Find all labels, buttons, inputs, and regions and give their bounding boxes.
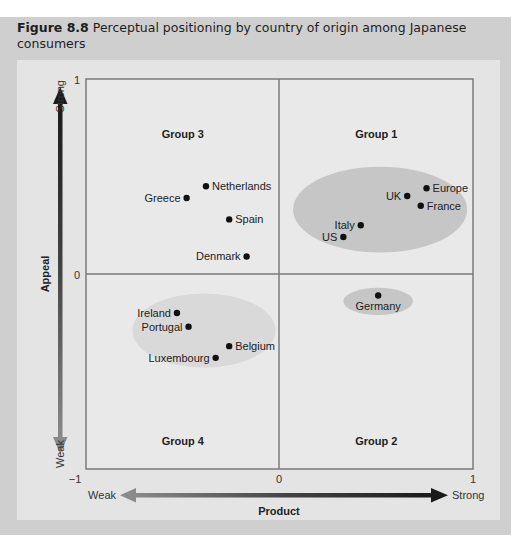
quadrant-label: Group 3 [162,128,204,140]
x-tick-right: 1 [470,473,476,485]
x-tick-mid: 0 [276,473,282,485]
dot-marker [404,193,410,199]
y-axis-strong-label: Strong [54,80,66,112]
data-point: Netherlands [203,180,272,192]
x-axis-title: Product [258,505,300,517]
point-label: US [322,231,337,243]
quadrant-label: Group 1 [355,128,397,140]
x-tick-left: −1 [69,473,82,485]
x-axis-weak-label: Weak [88,489,116,501]
data-point: Luxembourg [148,352,218,364]
point-label: Spain [235,213,263,225]
point-label: Luxembourg [148,352,209,364]
point-label: Germany [356,300,402,312]
dot-marker [243,253,249,259]
dot-marker [226,216,232,222]
y-axis-title: Appeal [39,256,51,293]
point-label: Greece [145,192,181,204]
point-label: Europe [433,182,468,194]
point-label: Italy [335,219,356,231]
dot-marker [340,234,346,240]
y-axis-weak-label: Weak [54,440,66,468]
point-label: France [427,200,461,212]
perceptual-map-chart: Group 1Group 2Group 3Group 4 Netherlands… [0,0,522,553]
product-axis-arrow [120,488,448,503]
dot-marker [183,195,189,201]
appeal-axis-arrow [53,87,68,454]
point-label: Portugal [142,321,183,333]
dot-marker [174,310,180,316]
point-label: Ireland [137,307,171,319]
dot-marker [212,355,218,361]
dot-marker [358,222,364,228]
dot-marker [375,292,381,298]
quadrant-label: Group 4 [162,435,205,447]
point-label: Denmark [196,250,241,262]
point-label: Netherlands [212,180,272,192]
dot-marker [423,185,429,191]
arrow-right-icon [431,488,448,503]
dot-marker [226,343,232,349]
dot-marker [418,203,424,209]
y-tick-mid: 0 [74,269,80,281]
dot-marker [203,183,209,189]
arrow-left-icon [120,488,136,503]
point-label: Belgium [235,340,275,352]
dot-marker [185,323,191,329]
point-label: UK [386,190,402,202]
quadrant-label: Group 2 [355,435,397,447]
x-axis-strong-label: Strong [452,489,484,501]
y-tick-top: 1 [74,74,80,86]
